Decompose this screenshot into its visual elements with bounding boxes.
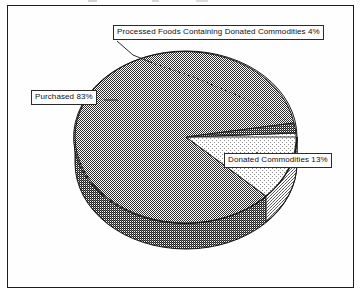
chart-frame-border xyxy=(7,5,354,288)
callout-processed-foods: Processed Foods Containing Donated Commo… xyxy=(113,25,324,40)
callout-donated-commodities: Donated Commodities 13% xyxy=(224,153,332,168)
scan-edge-artifact xyxy=(0,0,363,4)
callout-purchased: Purchased 83% xyxy=(31,90,97,105)
